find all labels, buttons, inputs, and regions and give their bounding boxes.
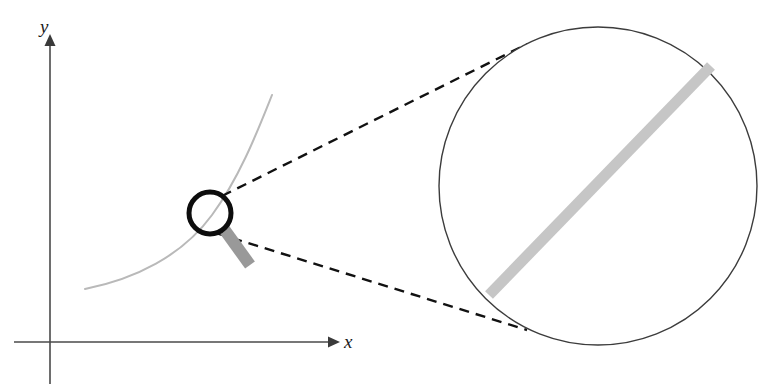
figure-container: x y [0, 0, 780, 384]
y-axis-label: y [38, 16, 49, 37]
magnifier-lens-icon [189, 192, 231, 234]
x-axis-arrowhead [328, 337, 340, 348]
x-axis-label: x [343, 331, 353, 352]
magnifier-handle [224, 229, 250, 265]
coordinate-axes: x y [14, 16, 353, 384]
magnified-view-group [439, 27, 757, 345]
figure-canvas: x y [0, 0, 780, 384]
